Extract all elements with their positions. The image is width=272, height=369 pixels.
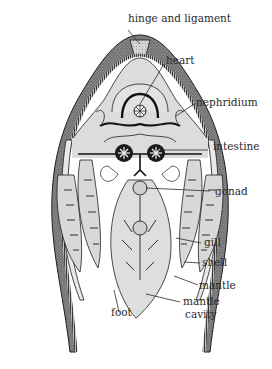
label-intestine: intestine (213, 140, 260, 152)
bivalve-anatomy-diagram: hinge and ligament heart nephridium inte… (0, 0, 272, 369)
label-nephridium: nephridium (196, 96, 258, 108)
label-mantle: mantle (199, 279, 236, 291)
label-gonad: gonad (215, 185, 248, 197)
hinge-ligament (130, 40, 150, 55)
label-mantle-cavity-line1: mantle (183, 295, 220, 307)
label-foot: foot (111, 306, 133, 318)
foot (111, 180, 171, 318)
label-heart: heart (166, 54, 195, 66)
gonad (133, 181, 147, 195)
label-shell: shell (202, 256, 228, 268)
label-hinge-and-ligament: hinge and ligament (128, 12, 232, 24)
label-gill: gill (204, 236, 221, 248)
label-mantle-cavity-line2: cavity (185, 308, 217, 320)
